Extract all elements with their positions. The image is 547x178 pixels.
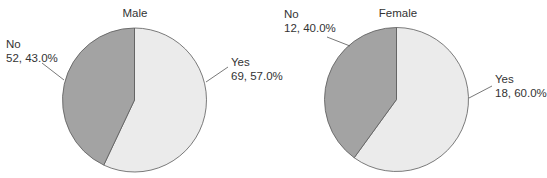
female-yes-leader-line: [469, 86, 492, 98]
female-no-leader-line: [327, 37, 350, 46]
male-no-value-label: 52, 43.0%: [6, 52, 58, 64]
male-chart-title: Male: [123, 7, 148, 19]
female-no-value-label: 12, 40.0%: [284, 22, 336, 34]
pie-charts-figure: Male No 52, 43.0% Yes 69, 57.0% Female N…: [0, 0, 547, 178]
male-yes-value-label: 69, 57.0%: [231, 70, 283, 82]
male-pie-chart: Male No 52, 43.0% Yes 69, 57.0%: [6, 7, 283, 172]
male-yes-leader-line: [206, 67, 228, 82]
female-yes-label: Yes: [495, 73, 514, 85]
pie-charts-svg: Male No 52, 43.0% Yes 69, 57.0% Female N…: [0, 0, 547, 178]
male-no-label: No: [6, 38, 21, 50]
female-chart-title: Female: [379, 7, 417, 19]
female-pie-chart: Female No 12, 40.0% Yes 18, 60.0%: [284, 7, 547, 172]
male-yes-label: Yes: [231, 56, 250, 68]
female-yes-value-label: 18, 60.0%: [495, 87, 547, 99]
male-no-leader-line: [42, 63, 64, 80]
female-no-label: No: [284, 8, 299, 20]
